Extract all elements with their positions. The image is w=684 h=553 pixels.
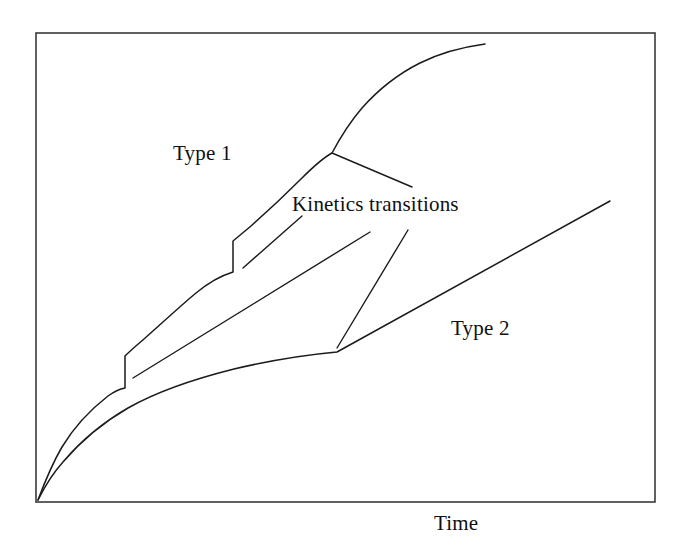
- leader-line-transition-3: [332, 153, 412, 187]
- figure-canvas: [0, 0, 684, 553]
- x-axis-label: Time: [434, 511, 478, 536]
- curve-type-1: [38, 44, 485, 500]
- leader-line-transition-1: [133, 232, 370, 378]
- annotation-kinetics-transitions: Kinetics transitions: [292, 192, 459, 217]
- curve-type-2: [38, 201, 610, 500]
- series-label-type-1: Type 1: [173, 141, 232, 166]
- series-label-type-2: Type 2: [451, 316, 510, 341]
- kinetics-figure: Type 1 Kinetics transitions Type 2 Time: [0, 0, 684, 553]
- leader-line-type2-transition: [337, 230, 408, 348]
- plot-frame: [36, 33, 655, 502]
- leader-line-transition-2: [243, 216, 302, 268]
